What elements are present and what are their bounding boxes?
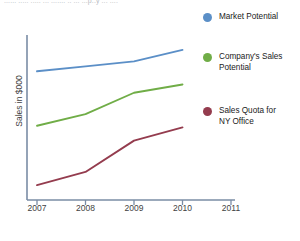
series-line-2 bbox=[37, 127, 183, 185]
legend-swatch-icon bbox=[203, 107, 212, 116]
legend-item-2[interactable]: Company's Sales Potential bbox=[203, 52, 300, 73]
legend-label: Company's Sales Potential bbox=[219, 52, 282, 73]
legend-swatch-icon bbox=[203, 53, 212, 62]
x-tick-label-2010: 2010 bbox=[163, 203, 203, 213]
legend-label: Market Potential bbox=[219, 12, 278, 23]
y-axis-label: Sales in $000 bbox=[14, 56, 24, 146]
x-tick-label-2009: 2009 bbox=[114, 203, 154, 213]
x-tick-label-2008: 2008 bbox=[66, 203, 106, 213]
legend-item-3[interactable]: Sales Quota for NY Office bbox=[203, 106, 300, 127]
legend-swatch-icon bbox=[203, 13, 212, 22]
legend-label: Sales Quota for NY Office bbox=[219, 106, 276, 127]
x-tick-label-2007: 2007 bbox=[17, 203, 57, 213]
series-line-1 bbox=[37, 85, 183, 126]
chart-legend: Market PotentialCompany's Sales Potentia… bbox=[203, 0, 300, 241]
chart-figure: ...... ..... ..... ... ....... .. ... ..… bbox=[0, 0, 300, 241]
legend-item-1[interactable]: Market Potential bbox=[203, 12, 300, 23]
series-line-0 bbox=[37, 50, 183, 71]
